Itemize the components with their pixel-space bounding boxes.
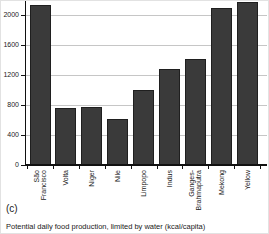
bar (237, 2, 258, 165)
x-axis-label: São Francisco (33, 170, 47, 200)
x-axis-tick (105, 166, 106, 169)
y-axis-tick-label: 800 (1, 101, 19, 109)
x-axis-label: Indus (166, 170, 173, 187)
x-axis-label: Nile (114, 170, 121, 182)
bar (30, 5, 51, 165)
bar (133, 90, 154, 165)
y-axis-tick-label: 0 (1, 161, 19, 169)
x-axis-label: Yellow (244, 170, 251, 190)
x-axis-tick (131, 166, 132, 169)
y-axis-tick-label: 1600 (1, 41, 19, 49)
x-axis-tick (79, 166, 80, 169)
x-axis-tick (27, 166, 28, 169)
x-axis-label: Volta (62, 170, 69, 186)
y-axis-line (25, 1, 26, 166)
x-axis-tick (260, 166, 261, 169)
bar-chart-plot-area: 0400800120016002000São FranciscoVoltaNig… (1, 1, 269, 211)
y-axis-tick-label: 1200 (1, 71, 19, 79)
bar (159, 69, 180, 165)
bar (185, 59, 206, 165)
x-axis-tick (53, 166, 54, 169)
x-axis-tick (157, 166, 158, 169)
chart-caption: Potential daily food production, limited… (6, 222, 205, 231)
x-axis-tick (234, 166, 235, 169)
x-axis-label: Niger (88, 170, 95, 187)
bar (107, 119, 128, 166)
x-axis-label: Mekong (218, 170, 225, 195)
figure-panel-c: 0400800120016002000São FranciscoVoltaNig… (0, 0, 269, 234)
panel-label: (c) (6, 203, 18, 214)
y-axis-tick-label: 2000 (1, 11, 19, 19)
bar (81, 107, 102, 166)
x-axis-tick (208, 166, 209, 169)
bar (55, 108, 76, 165)
x-axis-line (25, 164, 267, 166)
x-axis-label: Limpopo (140, 170, 147, 197)
x-axis-label: Ganges- Brahmaputra (188, 170, 202, 210)
y-axis-tick-label: 400 (1, 131, 19, 139)
x-axis-tick (182, 166, 183, 169)
bar (211, 8, 232, 165)
